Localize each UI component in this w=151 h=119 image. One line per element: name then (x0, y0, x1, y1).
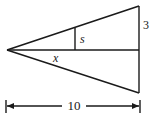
arrow-right-icon (132, 103, 139, 109)
lower-hypotenuse (7, 50, 139, 93)
upper-hypotenuse (7, 6, 139, 50)
s-label: s (80, 32, 85, 46)
arrow-left-icon (7, 103, 14, 109)
width-label: 10 (68, 98, 81, 113)
x-label: x (52, 51, 59, 65)
side-length-label: 3 (143, 18, 149, 32)
triangle-diagram: s x 3 10 (0, 0, 151, 119)
